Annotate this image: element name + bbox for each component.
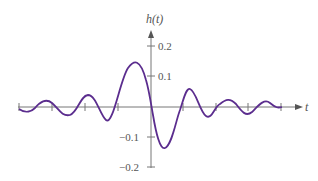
chart: h(t) t 0.2 0.1 −0.1 −0.2 (0, 0, 318, 181)
x-axis-arrow-icon (295, 104, 303, 110)
axes (18, 38, 295, 168)
tick-label-0.2: 0.2 (158, 40, 172, 52)
y-axis-arrow-icon (148, 30, 154, 38)
x-axis-label: t (305, 100, 309, 114)
tick-label-neg0.1: −0.1 (119, 131, 139, 143)
y-axis-label: h(t) (146, 12, 163, 26)
tick-label-neg0.2: −0.2 (119, 161, 139, 173)
tick-label-0.1: 0.1 (158, 70, 172, 82)
